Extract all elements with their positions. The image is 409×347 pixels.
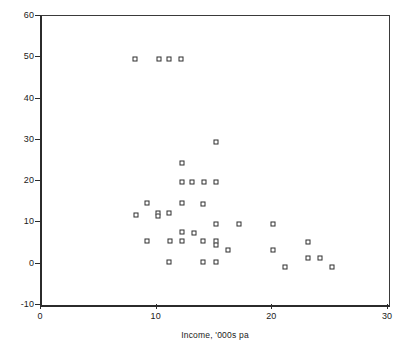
x-axis-tick-label: 20 (251, 312, 291, 321)
y-axis-tick (35, 180, 40, 181)
y-axis-tick (35, 139, 40, 140)
data-point (330, 264, 335, 269)
data-point (213, 242, 218, 247)
y-axis-tick-label: 40 (0, 93, 34, 102)
data-point (145, 239, 150, 244)
x-axis-tick-label: 0 (20, 312, 60, 321)
data-point (282, 264, 287, 269)
data-point (190, 180, 195, 185)
y-axis-tick (35, 263, 40, 264)
y-axis-tick-label: 50 (0, 52, 34, 61)
data-point (271, 247, 276, 252)
data-point (145, 201, 150, 206)
y-axis-tick-label: 30 (0, 134, 34, 143)
data-point (178, 56, 183, 61)
data-point (306, 256, 311, 261)
data-point (213, 259, 218, 264)
data-point (226, 247, 231, 252)
data-point (306, 240, 311, 245)
y-axis-tick (35, 56, 40, 57)
data-point (201, 180, 206, 185)
data-point (179, 239, 184, 244)
scatter-chart-figure: -1001020304050600102030 Income, '000s pa… (0, 0, 409, 347)
data-point (155, 213, 160, 218)
data-point (167, 259, 172, 264)
plot-area (40, 15, 390, 307)
x-axis-tick-label: 30 (367, 312, 407, 321)
data-point (132, 56, 137, 61)
data-point (156, 56, 161, 61)
data-points-layer (42, 16, 389, 305)
x-axis-tick-label: 10 (136, 312, 176, 321)
y-axis-tick-label: 0 (0, 258, 34, 267)
data-point (271, 222, 276, 227)
data-point (213, 222, 218, 227)
data-point (200, 259, 205, 264)
data-point (191, 230, 196, 235)
y-axis-tick-label: 20 (0, 176, 34, 185)
data-point (167, 56, 172, 61)
x-axis-tick (387, 304, 388, 309)
data-point (213, 180, 218, 185)
y-axis-tick (35, 221, 40, 222)
y-axis-tick-label: 10 (0, 217, 34, 226)
data-point (200, 201, 205, 206)
data-point (236, 222, 241, 227)
y-axis-tick-label: 60 (0, 11, 34, 20)
x-axis-tick (271, 304, 272, 309)
data-point (317, 256, 322, 261)
data-point (179, 201, 184, 206)
data-point (179, 180, 184, 185)
y-axis-tick (35, 98, 40, 99)
y-axis-tick-label: -10 (0, 300, 34, 309)
x-axis-tick (40, 304, 41, 309)
data-point (179, 230, 184, 235)
x-axis-tick (156, 304, 157, 309)
data-point (200, 239, 205, 244)
y-axis-tick (35, 15, 40, 16)
x-axis-title: Income, '000s pa (40, 330, 390, 340)
data-point (168, 239, 173, 244)
data-point (179, 160, 184, 165)
data-point (167, 210, 172, 215)
data-point (213, 140, 218, 145)
data-point (133, 213, 138, 218)
